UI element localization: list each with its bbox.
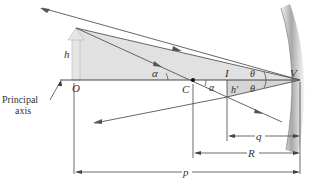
ray-reflected-down xyxy=(227,97,282,122)
ray-reflected-left xyxy=(95,97,227,123)
label-principal: Principal xyxy=(2,94,38,105)
arrowhead-top-left xyxy=(40,8,50,13)
label-axis: axis xyxy=(15,105,31,116)
p-arrow-left xyxy=(75,170,82,174)
diagram-canvas: O C I V h h′ α α θ θ q R p Principal axi… xyxy=(0,0,309,183)
label-alpha-2: α xyxy=(209,82,215,93)
alpha-arc-2 xyxy=(205,80,206,86)
mirror-ray-diagram: O C I V h h′ α α θ θ q R p Principal axi… xyxy=(0,0,309,183)
arrowhead-left-ray xyxy=(93,119,102,124)
arrowhead-down-ray xyxy=(254,109,263,114)
p-arrow-right xyxy=(293,170,300,174)
label-theta-2: θ xyxy=(250,83,255,94)
label-h-prime: h′ xyxy=(231,84,239,95)
center-point xyxy=(191,78,195,82)
label-c: C xyxy=(182,83,190,95)
principal-axis-pointer-arrow xyxy=(58,80,62,86)
label-p: p xyxy=(182,166,189,178)
label-alpha-1: α xyxy=(152,67,158,79)
label-h: h xyxy=(64,48,70,60)
label-theta-1: θ xyxy=(250,68,255,79)
principal-axis-pointer xyxy=(50,82,60,100)
label-r: R xyxy=(247,147,255,159)
r-arrow-left xyxy=(194,151,201,155)
label-o: O xyxy=(72,82,80,94)
q-arrow-left xyxy=(228,134,235,138)
label-q: q xyxy=(256,130,262,142)
